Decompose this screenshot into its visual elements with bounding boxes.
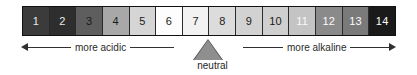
ph-cell-label: 3 xyxy=(86,16,92,27)
ph-cell-label: 5 xyxy=(139,16,145,27)
ph-cell-label: 13 xyxy=(349,16,362,27)
ph-cell-label: 1 xyxy=(33,16,39,27)
ph-cell-label: 14 xyxy=(376,16,389,27)
ph-cell: 11 xyxy=(289,7,316,35)
ph-cell: 1 xyxy=(23,7,50,35)
ph-cell: 2 xyxy=(50,7,77,35)
ph-cell-label: 10 xyxy=(269,16,282,27)
ph-cell-label: 12 xyxy=(323,16,336,27)
ph-cell: 12 xyxy=(316,7,343,35)
ph-cell: 10 xyxy=(263,7,290,35)
ph-cell-label: 7 xyxy=(193,16,199,27)
more-acidic-label: more acidic xyxy=(71,41,130,54)
ph-cell: 9 xyxy=(236,7,263,35)
ph-cell: 13 xyxy=(343,7,370,35)
neutral-triangle-icon xyxy=(194,40,222,60)
ph-cell-label: 8 xyxy=(219,16,225,27)
ph-cell-label: 4 xyxy=(113,16,119,27)
right-arrow-icon xyxy=(389,43,396,51)
ph-cell: 3 xyxy=(76,7,103,35)
ph-cell-label: 6 xyxy=(166,16,172,27)
ph-scale-bar: 1 2 3 4 5 6 7 8 9 10 11 12 13 14 xyxy=(22,6,396,36)
ph-cell: 6 xyxy=(156,7,183,35)
ph-cell: 5 xyxy=(130,7,157,35)
ph-cell-label: 9 xyxy=(246,16,252,27)
ph-cell: 4 xyxy=(103,7,130,35)
ph-cell: 14 xyxy=(369,7,395,35)
ph-scale-figure: 1 2 3 4 5 6 7 8 9 10 11 12 13 14 more ac… xyxy=(0,0,417,75)
ph-cell-label: 2 xyxy=(59,16,65,27)
more-alkaline-label: more alkaline xyxy=(283,41,350,54)
ph-cell: 8 xyxy=(209,7,236,35)
ph-cell: 7 xyxy=(183,7,210,35)
neutral-label: neutral xyxy=(197,60,228,71)
ph-cell-label: 11 xyxy=(296,16,308,27)
neutral-label-wrap: neutral xyxy=(0,60,417,72)
